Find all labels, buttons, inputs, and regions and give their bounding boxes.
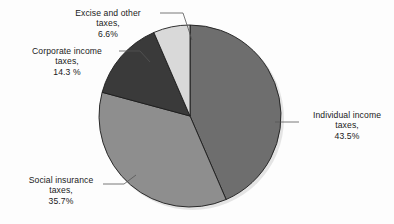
- slice-label-individual-line1: Individual income: [302, 110, 392, 120]
- slice-label-social-value: 35.7%: [2, 196, 120, 206]
- slice-label-excise-line1: Excise and other: [54, 8, 162, 18]
- pie-slices: [99, 25, 281, 207]
- slice-label-excise-and-other-taxes: Excise and other taxes, 6.6%: [54, 8, 162, 39]
- slice-label-corporate-value: 14.3 %: [8, 67, 126, 77]
- slice-label-corporate-line2: taxes,: [8, 56, 126, 66]
- slice-label-individual-line2: taxes,: [302, 120, 392, 130]
- slice-label-excise-line2: taxes,: [54, 18, 162, 28]
- slice-label-social-line2: taxes,: [2, 185, 120, 195]
- pie-chart-figure: Excise and other taxes, 6.6% Corporate i…: [0, 0, 394, 224]
- slice-label-social-line1: Social insurance: [2, 175, 120, 185]
- slice-label-individual-income-taxes: Individual income taxes, 43.5%: [302, 110, 392, 141]
- slice-label-excise-value: 6.6%: [54, 29, 162, 39]
- slice-label-corporate-income-taxes: Corporate income taxes, 14.3 %: [8, 46, 126, 77]
- slice-label-social-insurance-taxes: Social insurance taxes, 35.7%: [2, 175, 120, 206]
- slice-label-corporate-line1: Corporate income: [8, 46, 126, 56]
- slice-label-individual-value: 43.5%: [302, 131, 392, 141]
